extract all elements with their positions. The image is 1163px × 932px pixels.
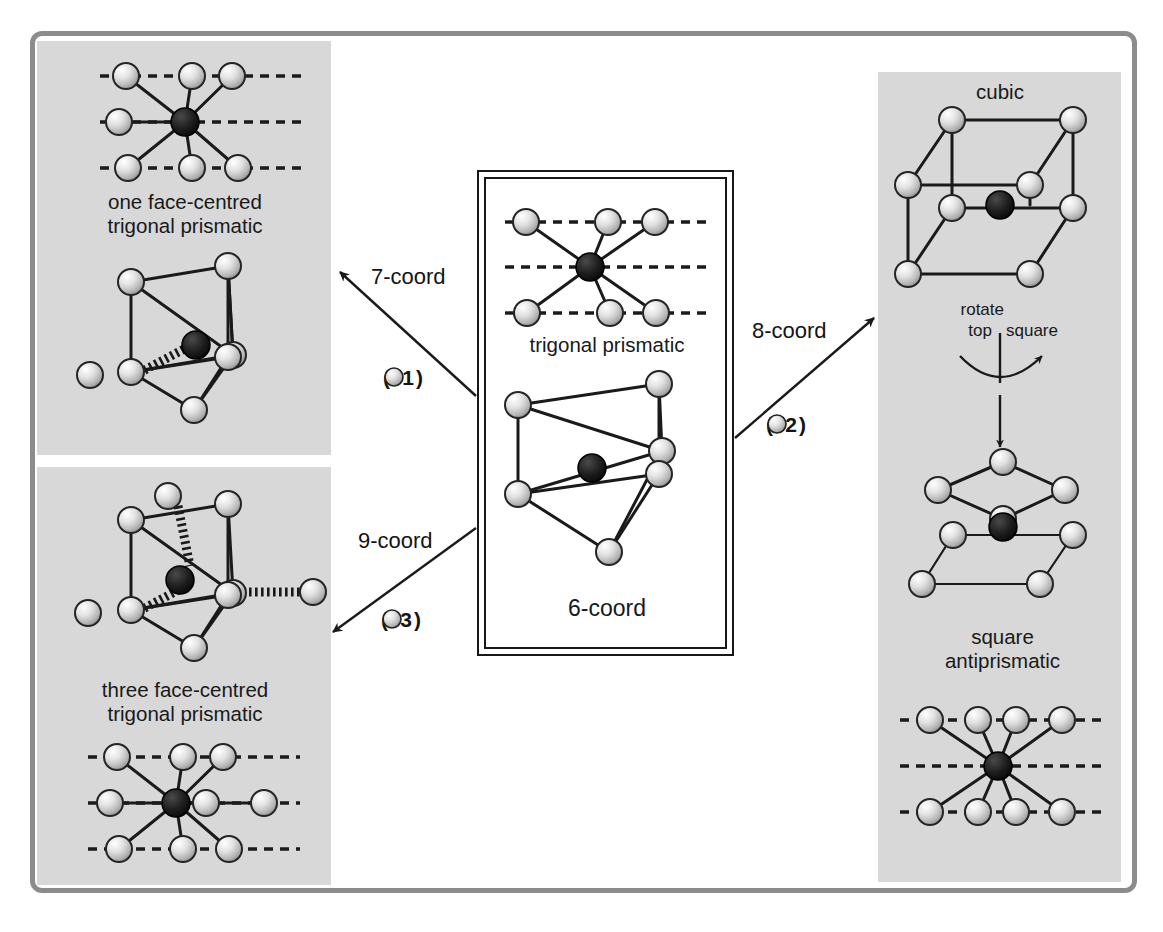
ligand-sphere-icon bbox=[381, 608, 403, 630]
caption-one-face-centred: one face-centred trigonal prismatic bbox=[50, 190, 320, 238]
caption-cubic: cubic bbox=[930, 80, 1070, 104]
rotate-label-top: top bbox=[930, 321, 992, 341]
delta-close: ) bbox=[799, 413, 806, 437]
caption-three-face-centred: three face-centred trigonal prismatic bbox=[50, 678, 320, 726]
figure-root: .bond{stroke:#1a1a1a;stroke-width:3;fill… bbox=[0, 0, 1163, 932]
delta-close: ) bbox=[416, 366, 423, 390]
ligand-sphere-icon bbox=[766, 413, 788, 435]
delta-label-plus3: (+3 ) bbox=[381, 608, 421, 632]
panel-cubic-antiprismatic bbox=[878, 72, 1121, 882]
rotate-label-square: square bbox=[1006, 321, 1086, 341]
panel-three-face-centred bbox=[37, 467, 331, 885]
caption-trigonal-prismatic: trigonal prismatic bbox=[497, 333, 717, 357]
delta-close: ) bbox=[414, 608, 421, 632]
ligand-sphere-icon bbox=[383, 366, 405, 388]
delta-label-plus1: (+1 ) bbox=[383, 366, 423, 390]
arrow-label-9-coord: 9-coord bbox=[358, 528, 433, 554]
panel-one-face-centred bbox=[37, 41, 331, 455]
caption-square-antiprismatic: square antiprismatic bbox=[905, 625, 1100, 673]
rotate-label-rotate: rotate bbox=[946, 300, 1004, 320]
arrow-label-8-coord: 8-coord bbox=[752, 318, 827, 344]
delta-label-plus2: (+2 ) bbox=[766, 413, 806, 437]
caption-6-coord: 6-coord bbox=[497, 595, 717, 622]
panel-centre-6coord bbox=[477, 170, 734, 656]
arrow-label-7-coord: 7-coord bbox=[371, 264, 446, 290]
